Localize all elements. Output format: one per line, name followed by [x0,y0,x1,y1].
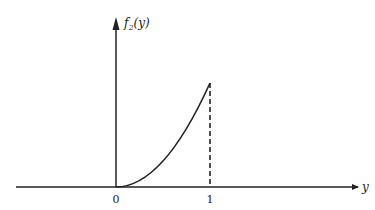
y-axis-label: f2(y) [123,16,150,32]
density-curve [116,83,210,187]
tick-label-0: 0 [113,193,120,206]
tick-label-1: 1 [207,193,214,206]
density-plot: f2(y) y 0 1 [0,0,375,210]
y-axis-arrowhead-icon [113,17,120,30]
x-axis-label: y [361,180,369,194]
